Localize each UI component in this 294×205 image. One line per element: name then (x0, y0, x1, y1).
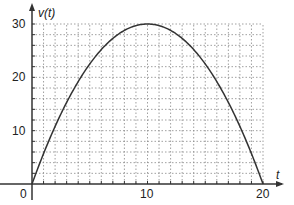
x-axis-label: t (276, 168, 280, 182)
x-tick-10: 10 (140, 187, 154, 201)
velocity-chart: v(t) t 30 20 10 0 10 20 (0, 0, 294, 205)
x-tick-20: 20 (256, 187, 270, 201)
y-tick-20: 20 (12, 70, 26, 84)
origin-label: 0 (20, 187, 27, 201)
velocity-curve (32, 24, 263, 184)
axes (0, 3, 284, 200)
y-axis-label: v(t) (38, 6, 55, 20)
y-axis-arrow-icon (29, 3, 35, 11)
y-tick-10: 10 (12, 124, 26, 138)
y-tick-30: 30 (12, 17, 26, 31)
